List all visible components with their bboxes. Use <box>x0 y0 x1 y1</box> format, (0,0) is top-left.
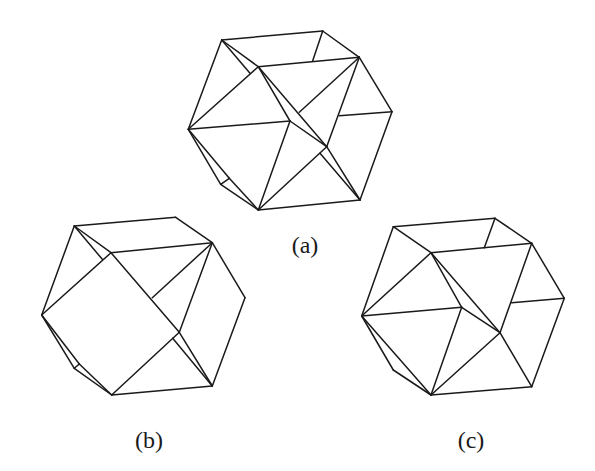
edge <box>79 364 111 395</box>
edge <box>431 387 532 395</box>
edge <box>42 315 80 364</box>
edge <box>500 333 532 387</box>
edge <box>222 40 259 67</box>
edge <box>74 364 79 368</box>
edge <box>532 243 565 298</box>
edge <box>484 218 495 247</box>
edge <box>532 298 565 386</box>
edge <box>313 31 323 61</box>
edge <box>339 112 392 116</box>
edge <box>188 129 229 178</box>
edge <box>362 227 394 316</box>
edge <box>74 368 111 395</box>
edge <box>74 217 175 226</box>
edge <box>173 338 213 386</box>
edge <box>212 243 245 298</box>
edge <box>359 57 392 111</box>
edge <box>212 298 245 386</box>
edge <box>320 153 360 200</box>
edge <box>299 57 359 112</box>
edge <box>188 121 290 129</box>
edge <box>431 253 500 333</box>
edge <box>362 316 394 370</box>
edge <box>188 67 258 130</box>
edge <box>188 40 221 129</box>
edge <box>42 253 111 315</box>
edge <box>362 253 431 316</box>
edge <box>431 253 462 308</box>
edge <box>500 243 532 332</box>
edge <box>323 31 360 57</box>
edge <box>512 298 565 302</box>
polyhedron-c <box>362 218 565 395</box>
edge <box>229 178 258 210</box>
edge <box>111 243 212 253</box>
polyhedron-a <box>188 31 392 210</box>
polyhedron-b <box>42 217 245 395</box>
edge <box>152 243 212 298</box>
edge <box>176 217 213 242</box>
edge <box>327 57 360 146</box>
edge <box>327 147 360 200</box>
polyhedra-figure: (a) (b) (c) <box>0 0 595 471</box>
edge <box>221 184 259 210</box>
edge <box>42 315 75 368</box>
edge <box>431 243 532 252</box>
edge <box>112 386 213 395</box>
edge <box>362 307 462 316</box>
edge <box>258 67 326 147</box>
edge <box>362 316 431 395</box>
edge <box>258 200 360 210</box>
edge <box>495 218 532 243</box>
edge <box>360 112 392 200</box>
edge <box>179 243 212 333</box>
edge <box>221 178 230 184</box>
edge <box>112 332 180 395</box>
edge <box>222 31 323 40</box>
edge <box>179 332 212 386</box>
edge <box>393 218 495 226</box>
edge <box>42 226 75 315</box>
edge <box>111 253 179 333</box>
edge <box>258 67 290 121</box>
label-c: (c) <box>458 427 485 453</box>
edge <box>258 121 290 210</box>
label-b: (b) <box>135 427 163 453</box>
label-a: (a) <box>292 232 319 258</box>
edge <box>393 227 431 253</box>
edge <box>258 147 326 210</box>
edge <box>188 129 220 184</box>
edge <box>258 57 359 66</box>
